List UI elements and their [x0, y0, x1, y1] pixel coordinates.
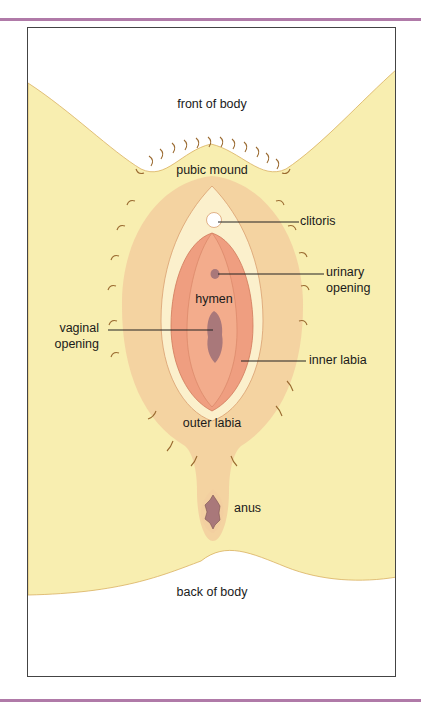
top-accent-band: [0, 18, 421, 21]
label-back-of-body: back of body: [177, 585, 248, 600]
label-urinary-opening-line1: urinary: [326, 265, 364, 280]
illustration-frame: [27, 27, 396, 677]
label-front-of-body: front of body: [177, 97, 247, 112]
label-urinary-opening-line2: opening: [326, 281, 371, 296]
label-vaginal-opening-line2: opening: [55, 337, 100, 352]
bottom-accent-band: [0, 699, 421, 702]
label-clitoris: clitoris: [300, 214, 335, 229]
clitoris-marker: [207, 213, 222, 228]
label-outer-labia: outer labia: [183, 416, 241, 431]
label-hymen: hymen: [195, 292, 233, 307]
label-vaginal-opening-line1: vaginal: [59, 321, 99, 336]
label-anus: anus: [234, 501, 261, 516]
label-inner-labia: inner labia: [309, 353, 367, 368]
label-pubic-mound: pubic mound: [176, 163, 248, 178]
